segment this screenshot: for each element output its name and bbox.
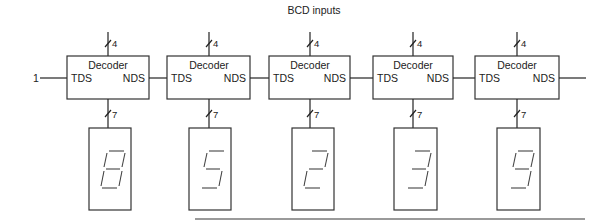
decoder-stage: 4DecoderTDSNDS7 bbox=[269, 32, 373, 210]
tds-port-label: TDS bbox=[377, 72, 398, 84]
tds-port-label: TDS bbox=[71, 72, 92, 84]
bus-width-label: 4 bbox=[213, 38, 218, 49]
input-label: 1 bbox=[33, 72, 39, 84]
nds-port-label: NDS bbox=[324, 72, 346, 84]
bus-width-label: 4 bbox=[521, 38, 526, 49]
nds-port-label: NDS bbox=[533, 72, 555, 84]
decoder-stage: 4DecoderTDSNDS7 bbox=[167, 32, 269, 210]
tds-port-label: TDS bbox=[479, 72, 500, 84]
decoder-title: Decoder bbox=[290, 59, 330, 71]
decoder-title: Decoder bbox=[497, 59, 537, 71]
tds-port-label: TDS bbox=[171, 72, 192, 84]
bus-width-label: 7 bbox=[417, 109, 422, 120]
bus-width-label: 4 bbox=[417, 38, 422, 49]
bus-width-label: 7 bbox=[521, 109, 526, 120]
nds-port-label: NDS bbox=[123, 72, 145, 84]
tds-port-label: TDS bbox=[273, 72, 294, 84]
decoder-stage: 4DecoderTDSNDS7 bbox=[67, 32, 167, 210]
bus-width-label: 4 bbox=[314, 38, 319, 49]
bcd-decoder-chain-diagram: BCD inputs 1 4DecoderTDSNDS74DecoderTDSN… bbox=[0, 0, 613, 223]
decoder-title: Decoder bbox=[393, 59, 433, 71]
nds-port-label: NDS bbox=[224, 72, 246, 84]
nds-port-label: NDS bbox=[427, 72, 449, 84]
bus-width-label: 7 bbox=[112, 109, 117, 120]
decoder-title: Decoder bbox=[189, 59, 229, 71]
bus-width-label: 7 bbox=[213, 109, 218, 120]
decoder-title: Decoder bbox=[88, 59, 128, 71]
decoder-stage: 4DecoderTDSNDS7 bbox=[475, 32, 559, 210]
diagram-title: BCD inputs bbox=[287, 4, 340, 16]
bus-width-label: 4 bbox=[112, 38, 117, 49]
decoder-stage: 4DecoderTDSNDS7 bbox=[373, 32, 475, 210]
bus-width-label: 7 bbox=[314, 109, 319, 120]
